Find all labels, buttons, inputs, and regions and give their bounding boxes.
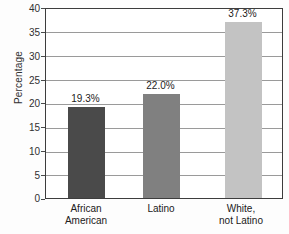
- category-line: White,: [198, 203, 284, 215]
- bar-value-label: 22.0%: [134, 80, 188, 91]
- bar-latino: [143, 94, 180, 198]
- bar-chart: Percentage 40 35 30 25 20 15 10 5 0 19.3…: [0, 0, 289, 234]
- x-category-label-white-not-latino: White, not Latino: [198, 203, 284, 227]
- y-axis-tick-labels: 40 35 30 25 20 15 10 5 0: [10, 0, 40, 234]
- y-tick-mark: [41, 199, 45, 200]
- y-tick-label: 25: [14, 76, 40, 86]
- category-line: Latino: [118, 203, 204, 215]
- y-tick-label: 5: [14, 171, 40, 181]
- bar-value-label: 37.3%: [216, 8, 270, 19]
- category-line: African: [43, 203, 129, 215]
- x-category-label-latino: Latino: [118, 203, 204, 215]
- category-line: American: [43, 215, 129, 227]
- bar-african-american: [68, 107, 105, 198]
- y-tick-label: 30: [14, 52, 40, 62]
- y-tick-label: 15: [14, 123, 40, 133]
- bar-white-not-latino: [225, 22, 262, 198]
- y-tick-label: 40: [14, 4, 40, 14]
- y-tick-label: 10: [14, 147, 40, 157]
- y-tick-label: 20: [14, 99, 40, 109]
- category-line: not Latino: [198, 215, 284, 227]
- x-category-label-african-american: African American: [43, 203, 129, 227]
- bar-value-label: 19.3%: [59, 93, 113, 104]
- y-tick-label: 35: [14, 28, 40, 38]
- y-tick-label: 0: [14, 194, 40, 204]
